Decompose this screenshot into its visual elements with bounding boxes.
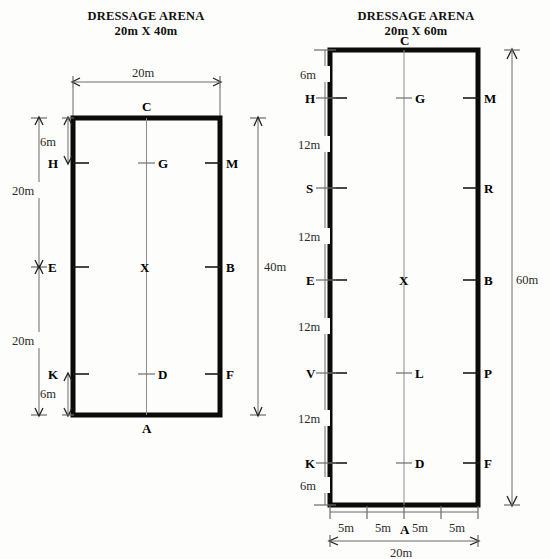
arena-20x40-title-line2: 20m X 40m bbox=[115, 24, 178, 38]
arena-20x60-bottom-segment-1: 5m bbox=[338, 521, 354, 535]
arena-20x60-marker-H: H bbox=[305, 91, 315, 106]
arena-20x60-length-label: 60m bbox=[516, 273, 539, 287]
arena-20x60-segment-12m-4: 12m bbox=[298, 412, 321, 426]
arena-20x40-marker-D: D bbox=[158, 367, 167, 382]
arena-20x40-row-EXB: E X B bbox=[48, 260, 235, 275]
arena-20x60-marker-C: C bbox=[400, 33, 409, 48]
arena-20x40-segment-6m-top: 6m bbox=[40, 135, 56, 149]
arena-20x40-marker-X: X bbox=[140, 260, 150, 275]
arena-20x40-title-line1: DRESSAGE ARENA bbox=[87, 9, 204, 23]
arena-20x60-marker-G: G bbox=[415, 91, 425, 106]
arena-20x40-marker-H: H bbox=[48, 156, 58, 171]
arena-20x60-length-dimension: 60m bbox=[504, 49, 550, 506]
arena-20x40-segment-20m-upper: 20m bbox=[12, 184, 35, 198]
arena-20x40-marker-K: K bbox=[48, 367, 59, 382]
arena-20x40-outer-left-dimensions: 20m 20m bbox=[10, 117, 47, 416]
arena-20x60-segment-6m-bottom: 6m bbox=[300, 479, 316, 493]
arena-20x60-width-dimension: 20m bbox=[329, 535, 479, 559]
arena-20x40-marker-C: C bbox=[142, 99, 151, 114]
arena-20x60-bottom-segment-4: 5m bbox=[449, 521, 465, 535]
arena-20x40-marker-F: F bbox=[226, 367, 234, 382]
arena-20x60-segment-12m-2: 12m bbox=[298, 230, 321, 244]
dressage-arena-diagram: DRESSAGE ARENA 20m X 40m 20m C A H G bbox=[0, 0, 550, 559]
arena-20x60-marker-S: S bbox=[306, 181, 313, 196]
arena-20x60-width-label: 20m bbox=[390, 546, 413, 559]
arena-20x40-width-label: 20m bbox=[132, 66, 155, 80]
arena-20x60-title-line2: 20m X 60m bbox=[385, 24, 448, 38]
arena-20x60-marker-P: P bbox=[484, 366, 492, 381]
arena-20x60-marker-D: D bbox=[415, 456, 424, 471]
arena-20x60-marker-E: E bbox=[306, 273, 315, 288]
arena-20x60-title-line1: DRESSAGE ARENA bbox=[357, 9, 474, 23]
arena-20x40-length-label: 40m bbox=[264, 260, 287, 274]
arena-20x60-marker-B: B bbox=[484, 273, 493, 288]
arena-20x60-marker-V: V bbox=[306, 366, 316, 381]
arena-20x40-length-dimension: 40m bbox=[250, 117, 298, 416]
arena-20x40-segment-6m-bottom: 6m bbox=[40, 387, 56, 401]
arena-20x60-marker-L: L bbox=[415, 366, 424, 381]
arena-20x60-bottom-segment-2: 5m bbox=[375, 521, 391, 535]
arena-20x60-bottom-segment-3: 5m bbox=[412, 521, 428, 535]
arena-20x40-marker-G: G bbox=[158, 156, 168, 171]
arena-20x40-marker-E: E bbox=[48, 260, 57, 275]
arena-20x60-marker-F: F bbox=[484, 456, 492, 471]
arena-20x40: DRESSAGE ARENA 20m X 40m 20m C A H G bbox=[10, 9, 298, 436]
arena-20x40-marker-A: A bbox=[142, 421, 152, 436]
arena-20x60-marker-A: A bbox=[400, 522, 410, 537]
arena-20x60-marker-K: K bbox=[305, 456, 316, 471]
arena-20x60: DRESSAGE ARENA 20m X 60m C A H G M S R bbox=[296, 9, 550, 559]
arena-20x60-segment-12m-3: 12m bbox=[298, 320, 321, 334]
arena-20x60-segment-6m-top: 6m bbox=[300, 68, 316, 82]
arena-20x40-row-KDF: K D F bbox=[48, 367, 234, 382]
arena-20x60-marker-X: X bbox=[399, 273, 409, 288]
arena-20x40-row-HGM: H G M bbox=[48, 156, 238, 171]
arena-20x40-segment-20m-lower: 20m bbox=[12, 334, 35, 348]
arena-20x60-segment-12m-1: 12m bbox=[298, 138, 321, 152]
arena-20x60-marker-R: R bbox=[484, 181, 494, 196]
arena-20x40-marker-B: B bbox=[226, 260, 235, 275]
arena-20x60-marker-M: M bbox=[484, 91, 496, 106]
arena-20x40-marker-M: M bbox=[226, 156, 238, 171]
